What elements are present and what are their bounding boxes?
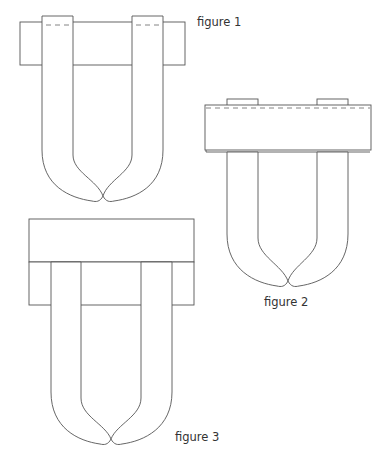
figure-1-label: figure 1 bbox=[197, 15, 241, 29]
figure-3-label: figure 3 bbox=[175, 430, 219, 444]
diagram-canvas bbox=[0, 0, 391, 466]
figure-2-drawing bbox=[205, 99, 371, 286]
figure-1-drawing bbox=[20, 16, 185, 201]
figure-3-top-band bbox=[29, 219, 194, 262]
figure-2-left-strap bbox=[227, 152, 288, 286]
figure-2-right-strap bbox=[288, 152, 348, 286]
figure-2-label: figure 2 bbox=[264, 295, 308, 309]
figure-3-drawing bbox=[29, 219, 194, 444]
figure-2-band bbox=[205, 105, 371, 150]
